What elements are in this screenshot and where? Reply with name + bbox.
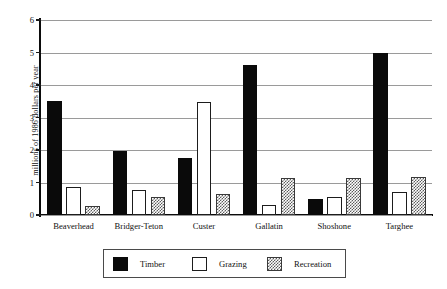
bar-targhee-timber: [373, 53, 388, 215]
y-axis-tick-label-2: 2: [30, 146, 34, 155]
y-axis-tick-label-4: 4: [30, 81, 34, 90]
bar-gallatin-recreation: [281, 178, 296, 215]
legend-entry-timber: Timber: [113, 257, 165, 271]
y-axis-tick-3: [36, 117, 41, 119]
y-axis-tick-4: [36, 84, 41, 86]
bar-beaverhead-recreation: [85, 206, 100, 215]
x-axis-tick-label-gallatin: Gallatin: [255, 221, 283, 231]
bar-bridger-teton-timber: [113, 151, 128, 215]
x-axis-tick-label-targhee: Targhee: [386, 221, 413, 231]
x-axis-tick-label-custer: Custer: [193, 221, 215, 231]
y-axis-tick-label-1: 1: [30, 178, 34, 187]
legend-swatch-timber-icon: [113, 257, 128, 271]
bar-gallatin-timber: [243, 65, 258, 215]
legend-entry-recreation: Recreation: [267, 257, 331, 271]
bar-bridger-teton-recreation: [151, 197, 166, 215]
bar-custer-timber: [178, 158, 193, 215]
y-axis-tick-2: [36, 149, 41, 151]
chart-legend: Timber Grazing Recreation: [103, 249, 346, 278]
bar-shoshone-recreation: [346, 178, 361, 215]
gridline-y-6: [41, 20, 432, 21]
y-axis-tick-5: [36, 52, 41, 54]
y-axis-tick-label-6: 6: [30, 16, 34, 25]
legend-label-recreation: Recreation: [294, 259, 331, 269]
bar-beaverhead-timber: [47, 101, 62, 215]
bar-beaverhead-grazing: [66, 187, 81, 215]
x-axis-tick-label-shoshone: Shoshone: [318, 221, 351, 231]
legend-entry-grazing: Grazing: [192, 257, 247, 271]
legend-swatch-recreation-icon: [267, 257, 282, 271]
y-axis-tick-0: [36, 214, 41, 216]
bar-shoshone-grazing: [327, 197, 342, 215]
bar-gallatin-grazing: [262, 205, 277, 215]
y-axis-tick-label-0: 0: [30, 211, 34, 220]
bar-bridger-teton-grazing: [132, 190, 147, 215]
y-axis-tick-label-5: 5: [30, 48, 34, 57]
y-axis-tick-1: [36, 182, 41, 184]
plot-area: 0123456: [41, 20, 432, 215]
gridline-y-0: [41, 215, 432, 216]
legend-label-timber: Timber: [140, 259, 165, 269]
x-axis-tick-label-beaverhead: Beaverhead: [53, 221, 94, 231]
bar-shoshone-timber: [308, 199, 323, 215]
bar-targhee-recreation: [411, 177, 426, 215]
legend-swatch-grazing-icon: [192, 257, 207, 271]
legend-label-grazing: Grazing: [219, 259, 247, 269]
bar-custer-grazing: [197, 102, 212, 215]
y-axis-tick-6: [36, 19, 41, 21]
bar-targhee-grazing: [392, 192, 407, 215]
y-axis-tick-label-3: 3: [30, 113, 34, 122]
bar-chart-figure: millions of 1986 dollars per year 012345…: [0, 0, 447, 289]
x-axis-tick-label-bridger-teton: Bridger-Teton: [115, 221, 163, 231]
bar-custer-recreation: [216, 194, 231, 215]
